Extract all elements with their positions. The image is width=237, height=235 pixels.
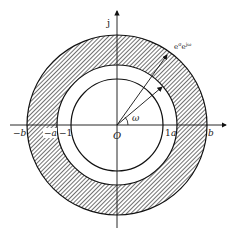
tick-label-pos-one: 1: [165, 128, 171, 138]
origin-label: O: [113, 130, 121, 141]
tick-label-pos-a: a: [171, 128, 176, 138]
tick-label-neg-b: −b: [13, 128, 27, 138]
tick-label-neg-one: −1: [59, 128, 72, 138]
radial-arrow-inner: [117, 87, 162, 125]
angle-label: ω: [132, 113, 140, 123]
arrow-label: eσejω: [174, 41, 191, 51]
annulus-diagram: j O ω eσejω −b −a −1 1 a b: [0, 0, 237, 235]
imaginary-axis-label: j: [106, 17, 110, 28]
tick-label-neg-a: −a: [44, 128, 57, 138]
tick-label-pos-b: b: [208, 128, 214, 138]
